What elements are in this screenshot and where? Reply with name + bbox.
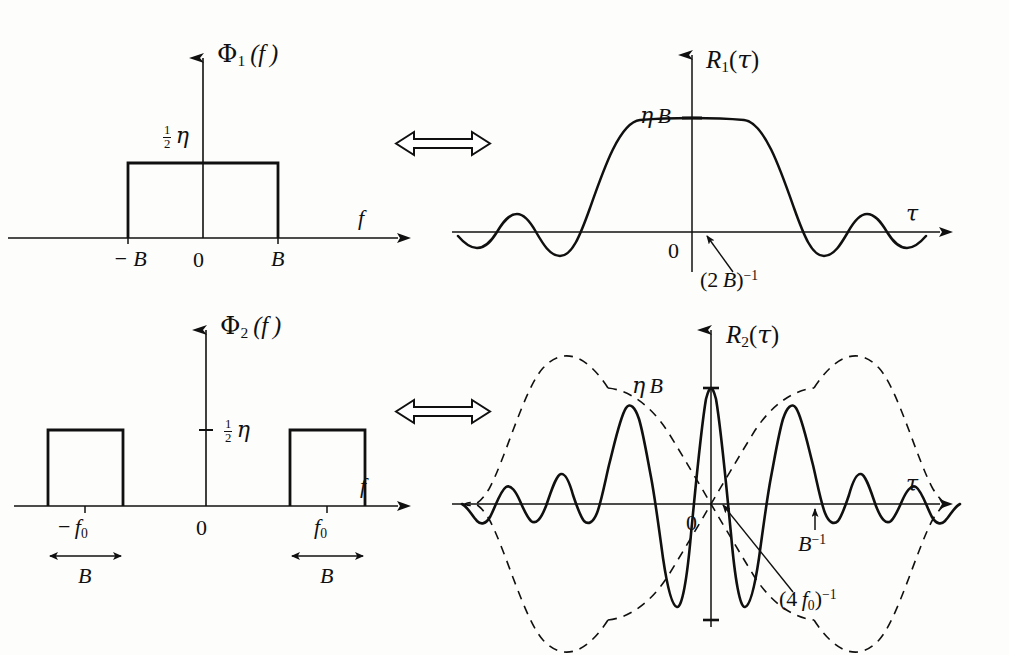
x-axis-label-tau-bottom: τ: [906, 473, 918, 495]
spectrum-rectangle-negative: [48, 430, 123, 506]
axis-label-phi2: Φ2 (f ): [220, 313, 281, 341]
figure-canvas: [0, 0, 1009, 655]
envelope-upper-right-lobe: [814, 356, 950, 504]
axis-label-phi1: Φ1 (f ): [217, 41, 278, 69]
x-tick-label-minus-B: − B: [113, 248, 147, 270]
width-label-B-negative: B: [78, 565, 91, 587]
zero-crossing-label-2B-inverse: (2 B)−1: [700, 269, 758, 291]
panel-top-right-lowpass-autocorrelation: [452, 55, 940, 272]
envelope-upper-left-lobe: [465, 356, 608, 506]
origin-label-top-left: 0: [193, 249, 204, 271]
level-label-half-eta-bottom: 12 η: [224, 418, 250, 445]
x-tick-label-f0: f0: [314, 516, 327, 540]
envelope-lower-left-lobe: [465, 503, 608, 653]
figure-root: Φ1 (f ) 12 η − B 0 B f R1(τ) η B 0 (2 B)…: [0, 0, 1009, 655]
transform-pair-arrow-bottom: [396, 400, 490, 423]
envelope-zero-label-B-inverse: B−1: [798, 533, 826, 555]
x-axis-label-f-bottom: f: [360, 475, 366, 497]
origin-label-top-right: 0: [668, 240, 679, 262]
x-tick-label-minus-f0: − f0: [58, 516, 88, 540]
x-axis-label-tau-top: τ: [906, 203, 918, 225]
origin-label-bottom-left: 0: [196, 517, 207, 539]
peak-label-eta-B-top: η B: [640, 105, 671, 127]
panel-bottom-right-bandpass-autocorrelation: [452, 330, 960, 652]
width-label-B-positive: B: [320, 565, 333, 587]
level-label-half-eta-top: 12 η: [163, 124, 189, 151]
panel-top-left-lowpass-spectrum: [8, 58, 398, 244]
x-tick-label-B: B: [271, 248, 284, 270]
envelope-lower-right-lobe: [814, 504, 950, 652]
x-axis-label-f-top: f: [358, 207, 364, 229]
axis-label-R2: R2(τ): [726, 322, 779, 350]
peak-label-eta-B-bottom: η B: [632, 375, 663, 397]
origin-label-bottom-right: 0: [686, 512, 697, 534]
carrier-label-4f0-inverse: (4 f0)−1: [779, 588, 837, 613]
spectrum-rectangle-positive: [290, 430, 365, 506]
axis-label-R1: R1(τ): [706, 47, 759, 75]
transform-pair-arrow-top: [396, 132, 490, 155]
